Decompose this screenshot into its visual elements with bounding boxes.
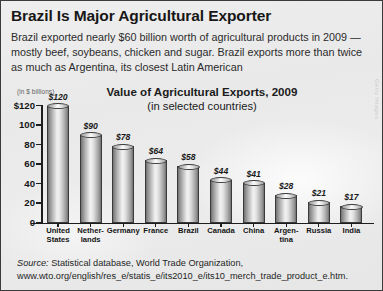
bar[interactable] [340,206,362,223]
y-axis-tick-text: 20 [0,198,35,208]
x-axis-label-line: India [329,226,373,235]
y-axis-tick [36,124,41,125]
source-text: Statistical database, World Trade Organi… [51,258,243,268]
bar-group[interactable]: $28 [273,85,299,223]
x-axis-label: India [329,226,373,235]
x-axis-label-line: tina [264,235,308,244]
bar[interactable] [243,183,265,223]
bar[interactable] [177,166,199,223]
y-axis-tick-text: $120 [0,101,35,111]
bar-top-ellipse [308,200,330,206]
page-title: Brazil Is Major Agricultural Exporter [11,7,371,25]
bar[interactable] [145,160,167,222]
bar-top-ellipse [112,144,134,150]
y-axis-tick-text: 40 [0,179,35,189]
bar-top-ellipse [275,193,297,199]
bar-group[interactable]: $120 [45,85,71,223]
bar[interactable] [112,146,134,222]
y-axis-tick-text: 100 [0,120,35,130]
y-axis-line [41,105,43,224]
bar[interactable] [275,195,297,222]
bar-value-label: $90 [72,121,110,131]
bar-group[interactable]: $17 [338,85,364,223]
bar-top-ellipse [80,132,102,138]
bar-group[interactable]: $78 [110,85,136,223]
bar-group[interactable]: $58 [175,85,201,223]
bar-value-label: $41 [235,169,273,179]
bar-value-label: $58 [169,152,207,162]
bar-group[interactable]: $44 [208,85,234,223]
y-axis-tick-label: 80 [1,140,35,150]
bar-group[interactable]: $64 [143,85,169,223]
y-axis-tick [36,202,41,203]
bar-top-ellipse [243,180,265,186]
x-axis-line [31,223,374,225]
y-axis-tick-text: 80 [0,140,35,150]
y-axis-tick-label: 60 [1,159,35,169]
y-axis-tick-label: 0 [1,218,35,228]
bar-chart-plot: $120100806040200 $120$90$78$64$58$44$41$… [1,85,383,251]
bar[interactable] [308,202,330,222]
y-axis-tick-label: $120 [1,101,35,111]
bar-top-ellipse [178,164,200,170]
bar-group[interactable]: $41 [241,85,267,223]
y-axis-tick-text: 60 [0,159,35,169]
bar-top-ellipse [145,158,167,164]
bar[interactable] [210,180,232,223]
bar[interactable] [47,106,69,223]
y-axis-tick [36,163,41,164]
y-axis-tick-label: 100 [1,120,35,130]
chart-container: (in $ billions) Value of Agricultural Ex… [1,85,383,251]
y-axis-tick [36,222,41,223]
y-axis-tick-label: 40 [1,179,35,189]
source-url: www.wto.org/english/res_e/statis_e/its20… [17,270,369,283]
bar-top-ellipse [210,177,232,183]
x-axis-label-line: lands [69,235,113,244]
bar-top-ellipse [341,204,363,210]
bar-value-label: $78 [104,132,142,142]
infographic-card: Brazil Is Major Agricultural Exporter Br… [0,0,383,291]
bar-value-label: $120 [39,92,77,102]
source-note: Source: Statistical database, World Trad… [17,257,369,282]
y-axis-tick [36,105,41,106]
y-axis-tick [36,183,41,184]
article-deck: Brazil exported nearly $60 billion worth… [11,30,363,76]
bar-group[interactable]: $90 [78,85,104,223]
bar-top-ellipse [47,103,69,109]
bar-value-label: $17 [332,192,370,202]
bar-group[interactable]: $21 [306,85,332,223]
source-label: Source: [17,258,49,268]
y-axis-tick [36,144,41,145]
bar[interactable] [80,135,102,223]
y-axis-tick-text: 0 [0,218,35,228]
y-axis-tick-label: 20 [1,198,35,208]
